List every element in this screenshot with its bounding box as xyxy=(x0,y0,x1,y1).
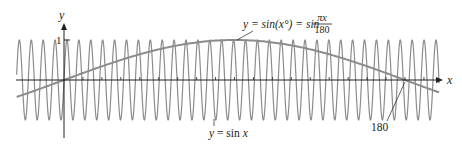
y-tick-label-1: 1 xyxy=(56,34,62,46)
x-axis-label: x xyxy=(446,73,453,87)
y-axis-label: y xyxy=(58,8,65,22)
fast-curve-equation: y = sin x xyxy=(208,127,249,140)
intercept-label-180: 180 xyxy=(371,121,389,133)
slow-curve-equation: y = sin(x°) = sin xyxy=(242,18,320,31)
sine-comparison-chart: y x 1 y = sin(x°) = sin πx 180 y = sin x… xyxy=(0,0,462,149)
intercept-leader-line xyxy=(387,82,405,121)
y-axis-arrow-icon xyxy=(61,23,67,30)
slow-curve-fraction-denominator: 180 xyxy=(315,24,330,35)
slow-curve-leader-line xyxy=(237,31,253,40)
slow-curve-fraction-numerator: πx xyxy=(317,12,327,23)
